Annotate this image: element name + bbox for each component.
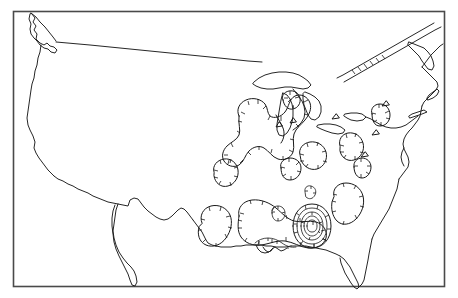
contour-map-figure [0, 0, 458, 298]
map-canvas [0, 0, 458, 298]
map-background [0, 0, 458, 298]
